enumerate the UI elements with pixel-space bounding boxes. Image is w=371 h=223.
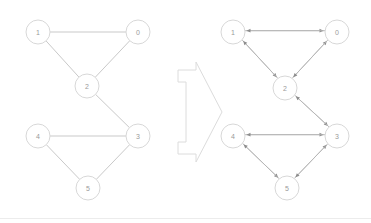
graph-node-4[interactable]: 4	[26, 124, 50, 148]
node-circle	[76, 176, 100, 200]
node-layer: 102435	[26, 20, 150, 200]
node-circle	[275, 176, 299, 200]
graph-node-1[interactable]: 1	[26, 20, 50, 44]
graph-figure: 102435 102435	[0, 0, 371, 223]
graph-edge	[243, 41, 278, 78]
node-circle	[26, 124, 50, 148]
node-circle	[26, 20, 50, 44]
undirected-graph: 102435	[26, 20, 150, 200]
graph-edge	[244, 144, 280, 178]
node-layer: 102435	[221, 20, 349, 200]
node-circle	[221, 20, 245, 44]
graph-node-5[interactable]: 5	[275, 176, 299, 200]
graph-node-3[interactable]: 3	[325, 124, 349, 148]
graph-node-2[interactable]: 2	[75, 74, 99, 98]
graph-edge	[293, 40, 328, 77]
node-circle	[273, 76, 297, 100]
graph-edge	[46, 145, 79, 180]
edge-arrowhead	[247, 133, 251, 137]
graph-node-0[interactable]: 0	[325, 20, 349, 44]
node-circle	[126, 20, 150, 44]
figure-canvas: 102435 102435	[0, 0, 371, 223]
graph-edge	[46, 41, 79, 77]
edge-arrowhead	[247, 29, 251, 33]
graph-node-0[interactable]: 0	[126, 20, 150, 44]
graph-edge	[296, 96, 329, 127]
graph-edge	[96, 94, 130, 127]
node-circle	[75, 74, 99, 98]
node-circle	[325, 124, 349, 148]
block-arrow-shape	[178, 62, 222, 162]
edge-layer	[46, 32, 130, 179]
graph-edge	[96, 145, 129, 180]
graph-node-5[interactable]: 5	[76, 176, 100, 200]
node-circle	[325, 20, 349, 44]
graph-node-3[interactable]: 3	[126, 124, 150, 148]
edge-layer	[242, 29, 329, 179]
right-block-arrow	[178, 62, 222, 162]
graph-node-4[interactable]: 4	[221, 124, 245, 148]
directed-graph: 102435	[221, 20, 349, 200]
graph-node-2[interactable]: 2	[273, 76, 297, 100]
graph-edge	[95, 41, 130, 78]
node-circle	[126, 124, 150, 148]
node-circle	[221, 124, 245, 148]
graph-node-1[interactable]: 1	[221, 20, 245, 44]
graph-edge	[295, 144, 327, 178]
